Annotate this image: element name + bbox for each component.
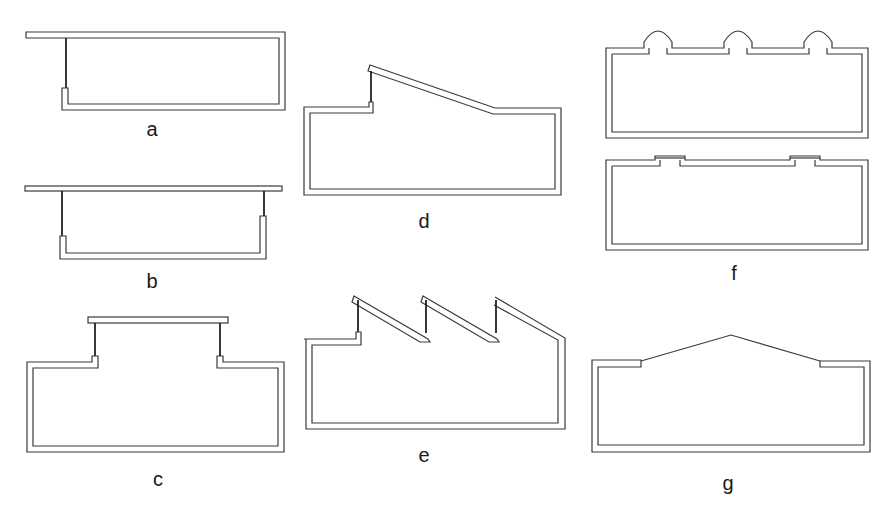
label-d: d [418,210,429,233]
label-g: g [722,472,733,495]
section-a [26,32,285,110]
section-g [592,335,870,452]
label-a: a [146,118,157,141]
section-c [27,317,284,452]
section-f-domes [606,31,868,138]
section-b [25,186,282,259]
diagram-canvas [0,0,895,507]
label-e: e [418,444,429,467]
label-c: c [153,468,163,491]
section-e [304,296,565,429]
label-f: f [731,262,737,285]
section-d [304,65,561,195]
label-b: b [146,270,157,293]
section-f-flat-skylights [606,156,868,250]
